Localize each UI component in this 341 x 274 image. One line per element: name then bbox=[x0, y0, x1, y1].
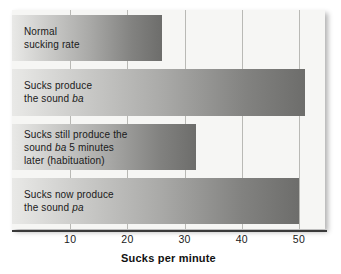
bar[interactable] bbox=[12, 178, 299, 224]
bar-row: Normal sucking rate bbox=[12, 15, 325, 61]
x-tick-label-30: 30 bbox=[178, 233, 190, 245]
bar[interactable] bbox=[12, 69, 305, 115]
bar-row: Sucks still produce the sound ba 5 minut… bbox=[12, 124, 325, 170]
x-tick-label-10: 10 bbox=[64, 233, 76, 245]
x-axis-line bbox=[12, 230, 327, 232]
bar[interactable] bbox=[12, 15, 162, 61]
bar-chart-figure: Normal sucking rateSucks produce the sou… bbox=[0, 0, 341, 274]
bar[interactable] bbox=[12, 124, 196, 170]
x-tick-label-20: 20 bbox=[121, 233, 133, 245]
x-axis-tick-labels: 1020304050 bbox=[0, 233, 341, 249]
x-tick-label-50: 50 bbox=[293, 233, 305, 245]
bars-group: Normal sucking rateSucks produce the sou… bbox=[12, 10, 325, 229]
bar-row: Sucks now produce the sound pa bbox=[12, 178, 325, 224]
plot-area: Normal sucking rateSucks produce the sou… bbox=[12, 10, 325, 229]
x-axis-title: Sucks per minute bbox=[12, 252, 325, 264]
bar-row: Sucks produce the sound ba bbox=[12, 69, 325, 115]
x-tick-label-40: 40 bbox=[236, 233, 248, 245]
